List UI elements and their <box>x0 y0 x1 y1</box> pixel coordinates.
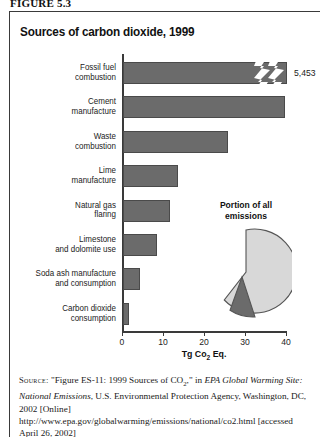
bar <box>123 165 178 187</box>
source-part2: ," in <box>187 375 205 385</box>
bar-category-label: Limestone and dolomite use <box>27 235 116 255</box>
x-axis-label: Tg Co2 Eq. <box>122 349 286 361</box>
x-axis-label-tail: Eq. <box>210 349 226 359</box>
pie-inset-title: Portion of all emissions <box>199 200 294 222</box>
pie-chart <box>200 226 292 318</box>
x-axis-label-text: Tg Co <box>182 349 207 359</box>
x-tick-label: 20 <box>199 337 209 347</box>
bar <box>123 96 285 118</box>
bar <box>123 62 287 84</box>
x-tick <box>122 331 123 336</box>
source-label: Source: <box>19 375 49 385</box>
chart-title: Sources of carbon dioxide, 1999 <box>20 25 194 39</box>
bar-category-label: Cement manufacture <box>27 97 116 117</box>
bar-category-label: Waste combustion <box>27 132 116 152</box>
bar <box>123 200 170 222</box>
bar-category-label: Natural gas flaring <box>27 201 116 221</box>
bar <box>123 131 228 153</box>
bar <box>123 303 129 325</box>
bar-value-label: 5,453 <box>294 68 316 78</box>
x-tick <box>245 331 246 336</box>
bar <box>123 234 157 256</box>
x-tick-label: 30 <box>240 337 250 347</box>
bar-category-label: Soda ash manufacture and consumption <box>27 269 116 289</box>
bar-row: Fossil fuel combustion 5,453 <box>18 56 308 90</box>
x-tick <box>163 331 164 336</box>
x-tick-label: 10 <box>158 337 168 347</box>
bar-category-label: Carbon dioxide consumption <box>27 304 116 324</box>
pie-inset: Portion of all emissions <box>196 200 296 325</box>
bar-row: Waste combustion <box>18 125 308 159</box>
x-tick <box>204 331 205 336</box>
bar <box>123 268 140 290</box>
source-part1: "Figure ES-11: 1999 Sources of CO <box>49 375 184 385</box>
bar-category-label: Fossil fuel combustion <box>27 63 116 83</box>
source-note: Source: "Figure ES-11: 1999 Sources of C… <box>19 374 307 437</box>
bar-row: Lime manufacture <box>18 159 308 193</box>
bar-category-label: Lime manufacture <box>27 166 116 186</box>
x-tick-label: 40 <box>281 337 291 347</box>
bar-row: Cement manufacture <box>18 90 308 124</box>
figure-number-label: FIGURE 5.3 <box>10 0 71 9</box>
x-tick <box>286 331 287 336</box>
x-tick-label: 0 <box>120 337 125 347</box>
